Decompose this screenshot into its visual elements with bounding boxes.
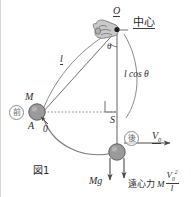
centrifugal-mass-symbol: M [155,179,165,189]
figure-caption: 図1 [33,166,49,176]
ball-final [109,144,125,160]
ball-final-highlight [112,146,117,151]
centrifugal-numerator: V02 [166,170,179,184]
angle-label: θ [107,42,111,51]
velocity-label: V0 [152,131,161,144]
ball-initial [29,104,45,120]
string-arc-initial [42,29,117,112]
state-before-badge: 前 [9,105,24,120]
initial-speed-label: 0 [43,125,48,135]
mass-label: M [25,92,33,102]
swing-arc-path [42,113,117,155]
string-length-label: l [60,54,63,65]
vertical-component-label: l cos θ [124,70,149,80]
state-after-badge: 後 [124,131,139,146]
string-line-initial [43,30,117,112]
weight-label: Mg [89,176,102,186]
velocity-subscript: 0 [158,136,161,143]
centrifugal-denominator: l [166,184,179,193]
pivot-point-dot [114,27,119,32]
centrifugal-numerator-sup: 2 [175,169,178,175]
center-label: 中心 [133,17,155,29]
pivot-label: O [113,6,120,17]
foot-point-label: S [110,115,115,125]
ball-initial-highlight [32,106,37,111]
initial-velocity-arrow [41,117,48,124]
centrifugal-force-text: 遠心力 [128,179,155,189]
centrifugal-fraction: V02l [165,170,179,193]
centrifugal-numerator-sub: 0 [172,176,175,182]
start-point-label: A [28,121,34,131]
right-angle-marker [105,101,116,112]
centrifugal-force-label: 遠心力MV02l [128,170,179,193]
